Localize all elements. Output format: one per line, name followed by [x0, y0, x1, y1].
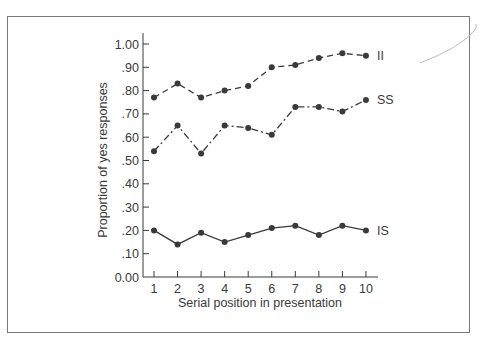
- data-point: [245, 83, 251, 89]
- page-curl-mark: [420, 24, 476, 63]
- data-point: [339, 109, 345, 115]
- line-chart: 0.00.10.20.30.40.50.60.70.80.901.0012345…: [0, 0, 495, 351]
- data-point: [363, 53, 369, 59]
- data-point: [269, 64, 275, 70]
- data-point: [175, 123, 181, 129]
- x-tick-label: 9: [339, 282, 346, 296]
- data-point: [339, 223, 345, 229]
- y-tick-label: .70: [122, 107, 139, 121]
- y-tick-label: .50: [122, 154, 139, 168]
- data-point: [151, 95, 157, 101]
- data-point: [292, 62, 298, 68]
- series-ss: [151, 97, 369, 157]
- data-point: [222, 123, 228, 129]
- y-tick-label: .80: [122, 84, 139, 98]
- y-tick-label: .40: [122, 177, 139, 191]
- x-tick-label: 3: [198, 282, 205, 296]
- data-point: [316, 55, 322, 61]
- data-point: [175, 81, 181, 87]
- y-tick-label: 1.00: [115, 38, 139, 52]
- series-label-is: IS: [377, 224, 389, 238]
- data-point: [292, 104, 298, 110]
- data-point: [363, 97, 369, 103]
- x-tick-label: 8: [315, 282, 322, 296]
- data-point: [151, 148, 157, 154]
- x-tick-label: 4: [221, 282, 228, 296]
- y-tick-label: .20: [122, 224, 139, 238]
- data-point: [198, 230, 204, 236]
- series-line: [154, 100, 366, 154]
- data-point: [363, 227, 369, 233]
- data-point: [245, 232, 251, 238]
- y-axis-title: Proportion of yes responses: [96, 82, 110, 238]
- data-point: [269, 132, 275, 138]
- series-label-ss: SS: [377, 93, 394, 107]
- x-axis-title: Serial position in presentation: [178, 296, 342, 310]
- x-tick-label: 7: [292, 282, 299, 296]
- series-is: [151, 223, 369, 248]
- data-point: [198, 95, 204, 101]
- data-point: [245, 125, 251, 131]
- y-tick-label: .10: [122, 247, 139, 261]
- data-point: [151, 227, 157, 233]
- data-point: [198, 151, 204, 157]
- x-tick-label: 2: [174, 282, 181, 296]
- data-point: [316, 104, 322, 110]
- x-tick-label: 1: [151, 282, 158, 296]
- y-tick-label: .30: [122, 201, 139, 215]
- data-point: [316, 232, 322, 238]
- data-point: [175, 241, 181, 247]
- series-layer: [151, 50, 369, 247]
- data-point: [269, 225, 275, 231]
- y-tick-label: .90: [122, 61, 139, 75]
- data-point: [222, 88, 228, 94]
- y-tick-label: 0.00: [115, 271, 139, 285]
- y-tick-label: .60: [122, 131, 139, 145]
- series-label-ii: II: [377, 49, 384, 63]
- series-line: [154, 226, 366, 245]
- axes: 0.00.10.20.30.40.50.60.70.80.901.0012345…: [115, 33, 378, 296]
- series-ii: [151, 50, 369, 100]
- labels-layer: Serial position in presentationProportio…: [96, 49, 394, 310]
- series-line: [154, 53, 366, 97]
- x-tick-label: 5: [245, 282, 252, 296]
- data-point: [292, 223, 298, 229]
- data-point: [222, 239, 228, 245]
- data-point: [339, 50, 345, 56]
- x-tick-label: 6: [268, 282, 275, 296]
- x-tick-label: 10: [359, 282, 373, 296]
